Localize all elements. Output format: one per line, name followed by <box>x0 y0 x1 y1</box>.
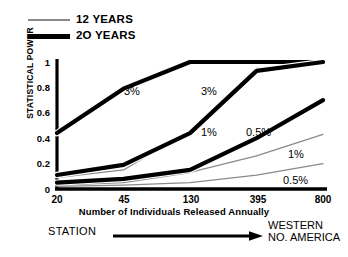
x-tick-label: 45 <box>104 194 144 205</box>
curve-annotation: 3% <box>124 85 140 97</box>
y-tick-label: 0.6 <box>24 107 50 118</box>
curve-annotation: 3% <box>201 85 217 97</box>
y-tick-label: 1 <box>24 57 50 68</box>
gradient-annotation: STATION WESTERN NO. AMERICA <box>0 219 348 255</box>
x-tick-label: 20 <box>37 194 77 205</box>
x-tick-label: 395 <box>238 194 278 205</box>
gradient-label-left: STATION <box>48 225 96 237</box>
x-tick-label: 800 <box>303 194 343 205</box>
figure: 12 YEARS 2O YEARS STATISTICAL POWER 1 0.… <box>0 0 348 257</box>
arrow-right-icon <box>113 231 263 241</box>
curve-annotation: 0.5% <box>246 126 271 138</box>
chart-legend: 12 YEARS 2O YEARS <box>28 12 136 44</box>
x-axis-title: Number of Individuals Released Annually <box>0 206 348 217</box>
legend-label-20-years: 2O YEARS <box>76 30 136 42</box>
y-tick-label: 0.2 <box>24 158 50 169</box>
curve-annotation: 0.5% <box>283 174 308 186</box>
gradient-label-right-line2: NO. AMERICA <box>268 231 340 243</box>
legend-label-12-years: 12 YEARS <box>76 14 133 26</box>
y-tick-label: 0.4 <box>24 133 50 144</box>
gradient-label-right: WESTERN NO. AMERICA <box>268 219 340 243</box>
y-tick-label: 0.8 <box>24 82 50 93</box>
curve-annotation: 1% <box>288 148 304 160</box>
curve-annotation: 1% <box>201 126 217 138</box>
legend-item-12-years: 12 YEARS <box>28 12 136 28</box>
x-tick-label: 130 <box>171 194 211 205</box>
legend-item-20-years: 2O YEARS <box>28 28 136 44</box>
gradient-label-right-line1: WESTERN <box>268 219 340 231</box>
